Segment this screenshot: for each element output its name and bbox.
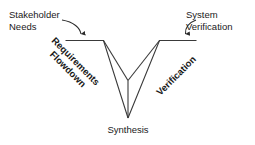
right-arm-inner-path — [128, 41, 160, 81]
right-arm-outer-path — [128, 41, 197, 119]
synthesis-label: Synthesis — [104, 124, 152, 136]
system-verification-label: System Verification — [186, 9, 232, 32]
stakeholder-needs-arrow-icon — [62, 20, 81, 34]
left-arm-inner-path — [104, 41, 129, 81]
vee-diagram-canvas: Stakeholder Needs System Verification Re… — [0, 0, 255, 145]
